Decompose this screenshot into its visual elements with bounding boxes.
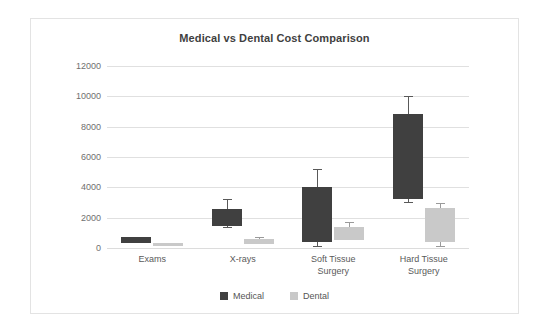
gridline <box>107 96 469 97</box>
y-axis-tick-label: 6000 <box>41 152 101 162</box>
chart-card: Medical vs Dental Cost Comparison 120001… <box>30 18 519 314</box>
bar-dental-exams <box>153 243 183 246</box>
x-axis-category-label: Hard TissueSurgery <box>369 253 479 277</box>
gridline <box>107 66 469 67</box>
x-axis-category-label-line: Surgery <box>369 265 479 277</box>
error-bar-upper-stem <box>317 169 318 186</box>
y-axis-tick-label: 12000 <box>41 61 101 71</box>
legend-item-medical[interactable]: Medical <box>220 291 264 301</box>
error-bar-upper-stem <box>227 199 228 208</box>
error-bar-upper-cap <box>313 169 322 170</box>
y-axis-tick-label: 8000 <box>41 122 101 132</box>
legend-item-dental[interactable]: Dental <box>290 291 329 301</box>
x-axis-category-label-line: Hard Tissue <box>369 253 479 265</box>
legend-swatch-dental <box>290 292 298 300</box>
bar-dental-x-rays <box>244 239 274 245</box>
y-axis-tick-labels: 120001000080006000400020000 <box>39 66 101 248</box>
bar-medical-x-rays <box>212 209 242 226</box>
plot-area <box>107 66 469 248</box>
legend-label: Dental <box>303 291 329 301</box>
bar-medical-hard-tissue-surgery <box>393 114 423 199</box>
chart-legend: MedicalDental <box>31 291 518 301</box>
legend-swatch-medical <box>220 292 228 300</box>
y-axis-tick-label: 2000 <box>41 213 101 223</box>
error-bar-upper-cap <box>345 222 354 223</box>
bar-dental-soft-tissue-surgery <box>334 227 364 241</box>
gridline <box>107 218 469 219</box>
error-bar-upper-cap <box>436 203 445 204</box>
y-axis-tick-label: 10000 <box>41 91 101 101</box>
chart-title: Medical vs Dental Cost Comparison <box>31 32 518 44</box>
bar-medical-exams <box>121 237 151 242</box>
error-bar-lower-cap <box>436 246 445 247</box>
error-bar-upper-cap <box>223 199 232 200</box>
y-axis-tick-label: 4000 <box>41 182 101 192</box>
error-bar-upper-stem <box>408 96 409 113</box>
error-bar-upper-cap <box>255 237 264 238</box>
axis-baseline <box>107 248 469 249</box>
bar-medical-soft-tissue-surgery <box>302 187 332 242</box>
error-bar-lower-cap <box>404 202 413 203</box>
error-bar-lower-cap <box>313 246 322 247</box>
legend-label: Medical <box>233 291 264 301</box>
y-axis-tick-label: 0 <box>41 243 101 253</box>
error-bar-upper-cap <box>404 96 413 97</box>
bar-dental-hard-tissue-surgery <box>425 208 455 242</box>
error-bar-lower-cap <box>223 227 232 228</box>
